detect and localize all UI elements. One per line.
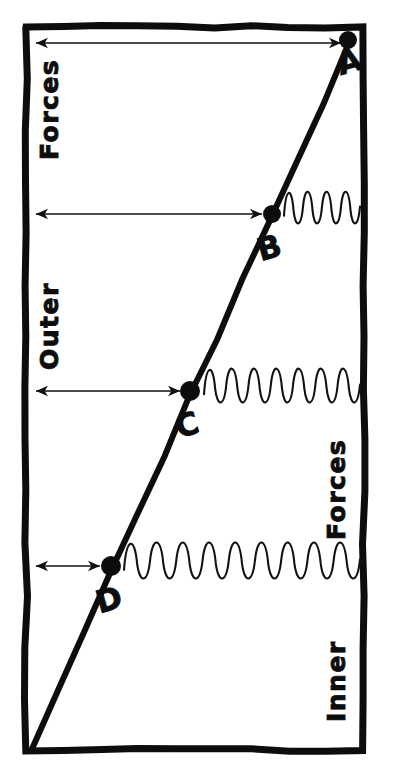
spring-D bbox=[124, 542, 360, 578]
measurement-arrow-b bbox=[36, 209, 262, 219]
inner-forces-top-label: Forces bbox=[322, 439, 351, 540]
point-label-b: B bbox=[253, 227, 286, 268]
forces-diagram-figure: ABCD Forces Outer Forces Inner bbox=[0, 0, 393, 781]
measurement-arrow-d bbox=[36, 561, 100, 571]
outer-forces-bottom-label: Outer bbox=[35, 282, 64, 370]
spring-C bbox=[204, 369, 360, 403]
measurement-arrow-a bbox=[36, 38, 341, 48]
point-label-d: D bbox=[92, 579, 127, 621]
point-label-c: C bbox=[171, 404, 203, 445]
point-dot-d bbox=[101, 556, 121, 576]
measurement-arrows-layer bbox=[36, 38, 341, 571]
point-dot-c bbox=[180, 381, 200, 401]
outer-forces-top-label: Forces bbox=[35, 59, 64, 160]
diagram-root: ABCD Forces Outer Forces Inner bbox=[0, 0, 393, 781]
spring-B bbox=[284, 192, 360, 224]
point-dot-b bbox=[263, 205, 281, 223]
inner-forces-bottom-label: Inner bbox=[322, 640, 351, 722]
measurement-arrow-c bbox=[36, 386, 180, 396]
